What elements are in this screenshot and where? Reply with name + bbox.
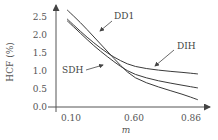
series-label-dd1: DD1: [114, 11, 134, 21]
y-tick-label: 2.0: [33, 30, 48, 40]
series-line-sdh: [67, 21, 198, 88]
y-tick-label: 0.5: [33, 84, 48, 94]
pointer-dih: [155, 50, 174, 66]
x-tick-label: 0.86: [181, 113, 201, 123]
y-tick-label: 0.0: [33, 102, 48, 112]
pointer-dd1: [100, 21, 112, 31]
y-tick-label: 1.5: [33, 48, 48, 58]
x-tick-label: 0.60: [124, 113, 144, 123]
series-label-dih: DIH: [177, 41, 196, 51]
y-tick-label: 1.0: [33, 66, 48, 76]
y-axis-label: HCF (%): [5, 42, 15, 81]
pointer-sdh: [86, 65, 103, 70]
y-tick-label: 2.5: [33, 12, 48, 22]
x-tick-label: 0.10: [61, 113, 81, 123]
hcf-line-chart: 0.00.51.01.52.02.5 0.100.600.86 HCF (%) …: [0, 0, 218, 140]
x-axis-label: m: [122, 125, 131, 135]
series-label-sdh: SDH: [62, 65, 83, 75]
series-line-dd1: [67, 10, 198, 100]
